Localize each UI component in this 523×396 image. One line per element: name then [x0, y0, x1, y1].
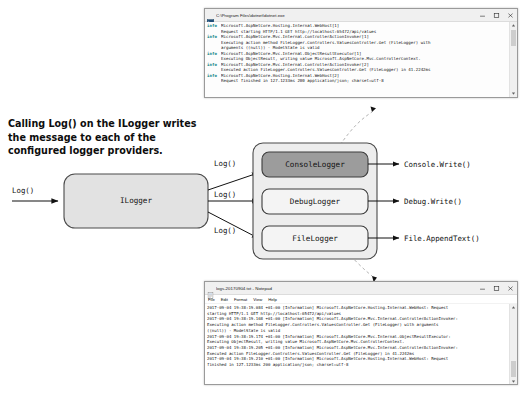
console-log-level: info — [207, 34, 221, 40]
notepad-scrollbar[interactable] — [509, 304, 517, 385]
notepad-window-titlebar[interactable]: logs-20170904.txt - Notepad — [205, 282, 517, 295]
minimize-button[interactable] — [475, 282, 489, 295]
console-log-line: Request finished in 127.1233ms 200 appli… — [207, 78, 517, 84]
notepad-menu-item[interactable]: Help — [268, 297, 277, 302]
scroll-up-icon[interactable] — [510, 22, 517, 29]
maximize-button[interactable] — [489, 9, 503, 22]
branch-log-label-2: Log() — [214, 190, 236, 199]
console-window-title: C:\Program Files\dotnet\dotnet.exe — [216, 13, 475, 18]
diagram-caption: Calling Log() on the ILogger writes the … — [8, 117, 204, 158]
maximize-button[interactable] — [489, 282, 503, 295]
notepad-menubar[interactable]: FileEditFormatViewHelp — [205, 295, 517, 304]
notepad-window-title: logs-20170904.txt - Notepad — [216, 286, 475, 291]
console-output-area[interactable]: infoMicrosoft.AspNetCore.Hosting.Interna… — [205, 22, 517, 97]
notepad-text-area[interactable]: 2017-09-04 19:38:19.084 +01:00 [Informat… — [205, 304, 517, 385]
console-scrollbar[interactable] — [509, 22, 517, 97]
branch-log-label-1: Log() — [214, 159, 236, 168]
scroll-down-icon[interactable] — [510, 378, 517, 385]
terminal-icon — [207, 12, 214, 19]
notepad-icon — [207, 285, 214, 292]
console-log-level: info — [207, 73, 221, 79]
console-log-text: Request finished in 127.1233ms 200 appli… — [221, 78, 517, 84]
console-logger-box-label: ConsoleLogger — [262, 160, 368, 169]
scroll-down-icon[interactable] — [510, 90, 517, 97]
debug-write-label: Debug.Write() — [404, 197, 462, 206]
file-appendtext-label: File.AppendText() — [404, 234, 480, 243]
close-button[interactable] — [503, 282, 517, 295]
debug-logger-box-label: DebugLogger — [262, 197, 368, 206]
console-write-label: Console.Write() — [404, 160, 471, 169]
console-log-level: info — [207, 23, 221, 29]
console-window-controls — [475, 9, 517, 22]
notepad-window-controls — [475, 282, 517, 295]
console-log-level: info — [207, 51, 221, 57]
input-log-label: Log() — [12, 186, 34, 195]
notepad-menu-item[interactable]: Edit — [221, 297, 228, 302]
notepad-menu-item[interactable]: View — [253, 297, 262, 302]
console-scrollbar-thumb[interactable] — [511, 30, 516, 46]
console-log-level: info — [207, 62, 221, 68]
scroll-up-icon[interactable] — [510, 304, 517, 311]
notepad-log-line: finished in 127.1233ms 200 application/j… — [207, 362, 517, 368]
notepad-menu-item[interactable]: File — [208, 297, 215, 302]
console-window[interactable]: C:\Program Files\dotnet\dotnet.exe infoM… — [204, 8, 518, 98]
minimize-button[interactable] — [475, 9, 489, 22]
branch-log-label-3: Log() — [214, 226, 236, 235]
notepad-scrollbar-thumb[interactable] — [511, 361, 516, 377]
notepad-window[interactable]: logs-20170904.txt - Notepad FileEditForm… — [204, 281, 518, 385]
ilogger-box-label: ILogger — [64, 196, 208, 205]
notepad-log-lines: 2017-09-04 19:38:19.084 +01:00 [Informat… — [205, 304, 517, 368]
close-button[interactable] — [503, 9, 517, 22]
file-logger-box-label: FileLogger — [262, 234, 368, 243]
notepad-menu-item[interactable]: Format — [234, 297, 247, 302]
console-window-titlebar[interactable]: C:\Program Files\dotnet\dotnet.exe — [205, 9, 517, 22]
console-log-lines: infoMicrosoft.AspNetCore.Hosting.Interna… — [205, 22, 517, 84]
